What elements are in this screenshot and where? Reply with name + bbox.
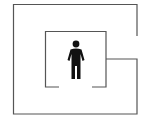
maze-diagram bbox=[0, 0, 146, 119]
person-icon bbox=[68, 41, 85, 79]
